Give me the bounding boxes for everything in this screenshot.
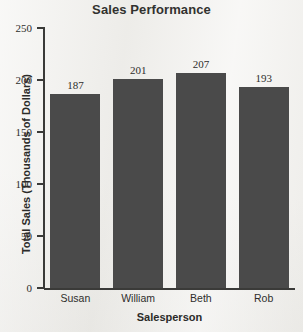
chart-title: Sales Performance [0,2,303,17]
category-label: Beth [166,292,236,304]
category-label: Susan [40,292,110,304]
bar-value-label: 201 [108,64,168,76]
y-tick-label: 150 [16,126,33,138]
x-axis-line [44,288,295,290]
bar [113,79,163,288]
y-tick-mark [37,27,44,29]
category-label: William [103,292,173,304]
y-tick-label: 200 [16,74,33,86]
y-tick-mark [37,183,44,185]
bar-value-label: 193 [234,72,294,84]
y-tick-mark [37,79,44,81]
y-tick-label: 250 [16,22,33,34]
y-tick-mark [37,131,44,133]
y-tick-mark [37,235,44,237]
bar [239,87,289,288]
y-tick-label: 50 [21,230,32,242]
y-tick-mark [37,287,44,289]
bar [176,73,226,288]
y-axis-title: Total Sales (Thousands of Dollars) [20,34,32,294]
bar [50,94,100,288]
category-label: Rob [229,292,299,304]
bar-value-label: 187 [45,79,105,91]
bar-value-label: 207 [171,58,231,70]
x-axis-title: Salesperson [44,311,295,323]
y-tick-label: 100 [16,178,33,190]
bar-chart: Sales Performance Total Sales (Thousands… [0,0,303,332]
y-axis-line [43,27,45,289]
y-tick-label: 0 [27,282,33,294]
